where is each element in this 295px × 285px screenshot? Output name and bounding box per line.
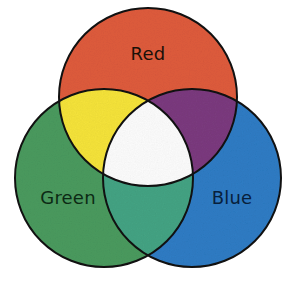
label-red: Red [131, 43, 166, 64]
venn-diagram-canvas: Red Green Blue [0, 0, 295, 285]
label-blue: Blue [212, 187, 253, 208]
rgb-venn-diagram: Red Green Blue [0, 0, 295, 285]
label-green: Green [40, 187, 96, 208]
